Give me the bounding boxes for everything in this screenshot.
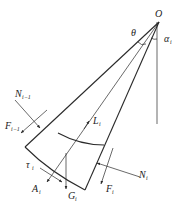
A-label: A [31,183,39,194]
N-sub: i [146,175,148,181]
L-arrow [84,121,89,129]
theta-label: θ [131,27,136,38]
N-prev-sub: i−1 [22,94,31,100]
F-prev-sub: i−1 [11,126,20,132]
origin-label: O [155,8,162,19]
tau-sub: i [32,165,34,171]
tau-label: τ [26,159,30,170]
right-radius-line [85,22,159,190]
left-radius-line [25,22,159,147]
L-label: L [92,115,99,126]
N-prev-arrow [15,100,40,128]
G-sub: i [75,196,77,202]
slice-force-diagram: O θ α i N i−1 F i−1 L i τ i A i G i F i … [0,0,180,208]
F-arrow [101,148,113,184]
center-radius-line [47,22,159,182]
N-arrow [97,163,140,177]
middle-slice-arc [58,133,104,145]
A-sub: i [39,189,41,195]
L-sub: i [99,121,101,127]
F-sub: i [112,189,114,195]
alpha-sub: i [170,39,172,45]
